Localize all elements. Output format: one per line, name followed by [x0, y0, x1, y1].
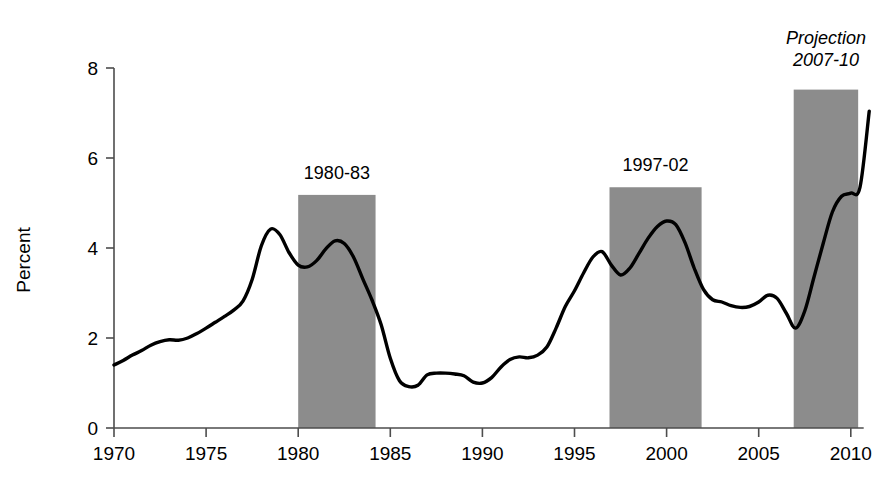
y-axis-tick-label: 2 [87, 328, 98, 349]
x-axis-tick-label: 2010 [830, 443, 872, 464]
y-axis-tick-label: 8 [87, 58, 98, 79]
chart-container: 0246819701975198019851990199520002005201… [0, 0, 892, 503]
band-label: 1980-83 [304, 163, 370, 183]
shaded-band [609, 187, 701, 428]
data-line [114, 111, 869, 387]
shaded-bands-layer [298, 90, 858, 428]
y-axis-tick-label: 0 [87, 418, 98, 439]
band-label-projection-years: 2007-10 [792, 50, 859, 70]
x-axis-tick-label: 1980 [277, 443, 319, 464]
x-axis-tick-label: 1970 [93, 443, 135, 464]
shaded-band [794, 90, 858, 428]
x-axis-tick-label: 1995 [553, 443, 595, 464]
axes-layer: 0246819701975198019851990199520002005201… [87, 58, 872, 464]
x-axis-tick-label: 2005 [738, 443, 780, 464]
x-axis-tick-label: 1990 [461, 443, 503, 464]
x-axis-tick-label: 2000 [645, 443, 687, 464]
x-axis-tick-label: 1985 [369, 443, 411, 464]
y-axis-tick-label: 6 [87, 148, 98, 169]
labels-layer: 1980-831997-02Projection2007-10Percent [13, 28, 866, 293]
data-series-layer [114, 111, 869, 387]
band-label-projection: Projection [786, 28, 866, 48]
x-axis-tick-label: 1975 [185, 443, 227, 464]
line-chart: 0246819701975198019851990199520002005201… [0, 0, 892, 503]
y-axis-title: Percent [13, 227, 34, 293]
y-axis-tick-label: 4 [87, 238, 98, 259]
shaded-band [298, 195, 375, 428]
band-label: 1997-02 [623, 155, 689, 175]
